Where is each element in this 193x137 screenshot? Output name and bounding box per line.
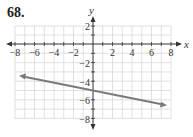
y-tick-label: −6 bbox=[79, 95, 90, 106]
coordinate-plane: x y −8 −6 −4 −2 2 4 6 8 2 −2 −4 −6 −8 bbox=[0, 0, 193, 137]
x-axis-arrow-right-icon bbox=[176, 42, 182, 47]
y-tick-label: −8 bbox=[79, 114, 90, 125]
x-tick-label: −6 bbox=[29, 47, 40, 58]
y-tick-label: −2 bbox=[79, 58, 90, 69]
line-arrow-left-icon bbox=[19, 74, 26, 80]
x-tick-label: −8 bbox=[10, 47, 21, 58]
line-arrow-right-icon bbox=[160, 102, 167, 108]
x-axis-arrow-left-icon bbox=[6, 42, 12, 47]
x-tick-label: −2 bbox=[68, 47, 79, 58]
x-tick-label: 4 bbox=[130, 47, 135, 58]
x-axis-label: x bbox=[183, 38, 189, 50]
x-tick-label: 8 bbox=[169, 47, 174, 58]
y-tick-label: −4 bbox=[79, 77, 90, 88]
x-tick-label: −4 bbox=[49, 47, 60, 58]
y-axis-arrow-down-icon bbox=[91, 124, 96, 130]
x-tick-label: 2 bbox=[110, 47, 115, 58]
x-tick-label: 6 bbox=[149, 47, 154, 58]
y-tick-label: 2 bbox=[85, 21, 90, 32]
y-axis-label: y bbox=[88, 4, 94, 16]
y-axis-arrow-up-icon bbox=[91, 16, 96, 22]
